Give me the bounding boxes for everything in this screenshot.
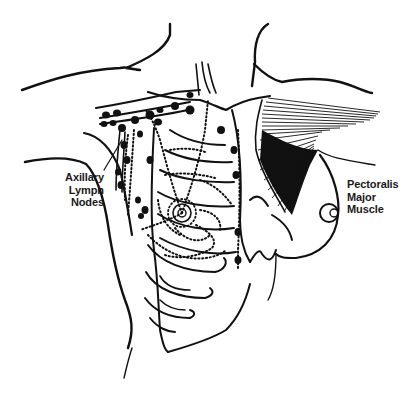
anatomy-diagram: Axillary Lymph Nodes Pectoralis Major Mu… <box>0 0 412 401</box>
neck-shoulder-outline <box>22 24 372 95</box>
axillary-label-line1: Axillary <box>52 171 104 184</box>
axillary-lymph-nodes-label: Axillary Lymph Nodes <box>52 171 104 209</box>
clavicle <box>96 90 270 124</box>
axillary-label-line3: Nodes <box>52 196 104 209</box>
lymphatic-vessels <box>125 100 240 268</box>
axillary-label-line2: Lymph <box>52 184 104 197</box>
pectoralis-label-line3: Muscle <box>347 203 411 216</box>
pectoralis-label-line2: Major <box>347 191 411 204</box>
pectoralis-major-muscle-label: Pectoralis Major Muscle <box>347 178 411 216</box>
pectoralis-label-line1: Pectoralis <box>347 178 411 191</box>
